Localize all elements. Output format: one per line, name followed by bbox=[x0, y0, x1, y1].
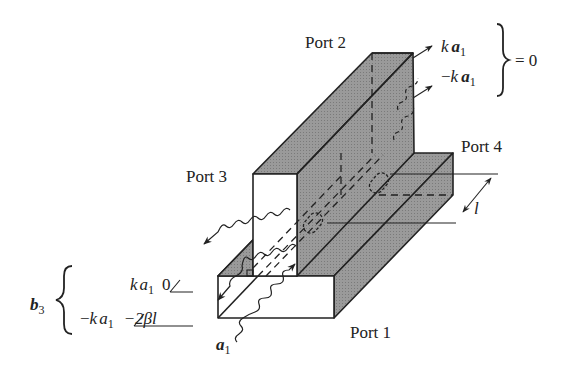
port2-label: Port 2 bbox=[305, 33, 346, 52]
b3-lower-term: −ka1−2βl bbox=[80, 309, 157, 331]
port1-label: Port 1 bbox=[350, 323, 391, 342]
b3-outputs: b3 ka10 −ka1−2βl bbox=[30, 266, 193, 334]
port2-output-lower: −ka1 bbox=[441, 67, 476, 89]
port3-opening bbox=[253, 174, 297, 276]
port2-arrow-lower bbox=[413, 86, 432, 98]
spacing-label: l bbox=[474, 199, 479, 218]
input-a1-label: a1 bbox=[216, 335, 231, 357]
port1-opening bbox=[218, 276, 334, 318]
port2-arrow-upper bbox=[413, 46, 432, 58]
angle-symbol-upper bbox=[170, 280, 193, 292]
b3-label: b3 bbox=[30, 295, 45, 317]
b3-brace bbox=[56, 266, 72, 334]
port3-label: Port 3 bbox=[186, 167, 227, 186]
port2-brace bbox=[497, 24, 509, 96]
waveguide-coupler-diagram: l Port 2 Port 3 Port 4 Port 1 ka1 −ka1 =… bbox=[0, 0, 562, 369]
port4-label: Port 4 bbox=[461, 137, 503, 156]
port2-output-upper: ka1 bbox=[441, 37, 466, 59]
port2-outputs: ka1 −ka1 = 0 bbox=[441, 24, 537, 96]
port2-equals-zero: = 0 bbox=[515, 51, 537, 70]
b3-upper-term: ka10 bbox=[130, 275, 171, 297]
